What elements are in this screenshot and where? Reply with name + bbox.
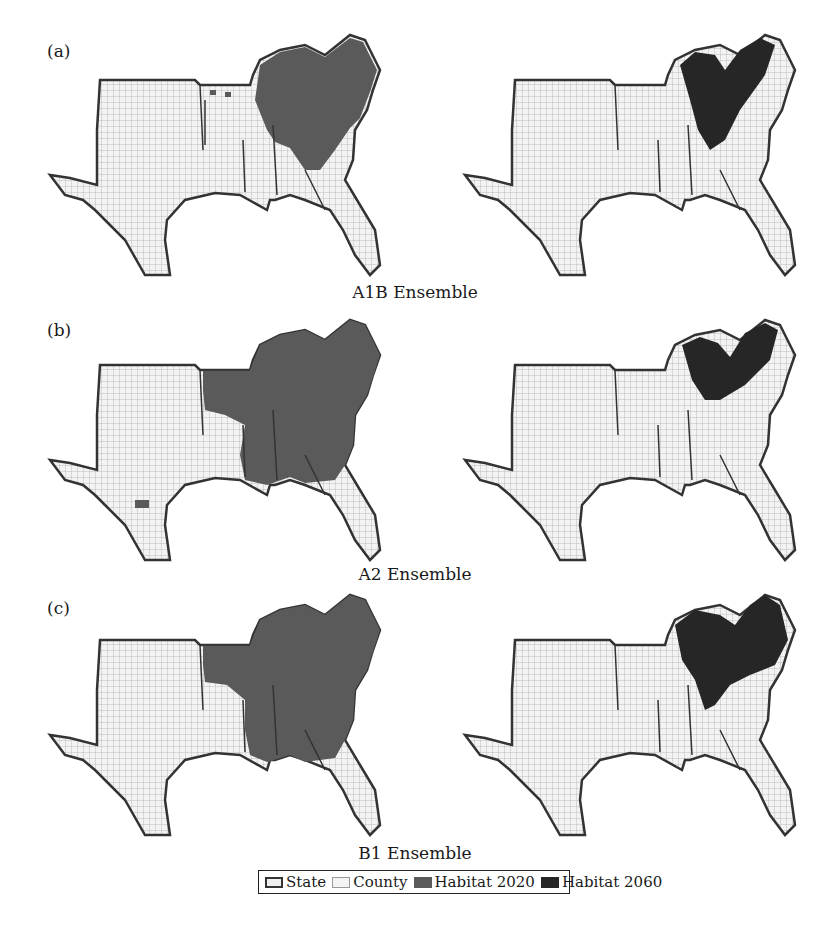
- county-swatch-icon: [332, 877, 350, 888]
- state-swatch-icon: [265, 877, 283, 888]
- map-b-2060: [420, 315, 820, 565]
- map-c-2060: [420, 590, 820, 840]
- map-a-2020: [5, 30, 405, 280]
- map-b-2020: [5, 315, 405, 565]
- legend: State County Habitat 2020 Habitat 2060: [258, 870, 570, 894]
- habitat-2060-swatch-icon: [541, 877, 559, 888]
- map-a-2060: [420, 30, 820, 280]
- panel-caption-b: A2 Ensemble: [0, 564, 830, 584]
- legend-item-county: County: [332, 873, 407, 891]
- panel-caption-c: B1 Ensemble: [0, 843, 830, 863]
- map-c-2020: [5, 590, 405, 840]
- legend-item-state: State: [265, 873, 326, 891]
- legend-item-habitat-2020: Habitat 2020: [414, 873, 535, 891]
- legend-item-habitat-2060: Habitat 2060: [541, 873, 662, 891]
- habitat-2020-swatch-icon: [414, 877, 432, 888]
- panel-caption-a: A1B Ensemble: [0, 282, 830, 302]
